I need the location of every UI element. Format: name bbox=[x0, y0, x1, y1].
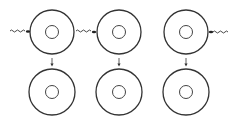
egg-cell-1 bbox=[30, 10, 74, 54]
nucleus-icon bbox=[46, 86, 59, 99]
nucleus-icon bbox=[180, 86, 193, 99]
egg-cell-2 bbox=[97, 10, 141, 54]
egg-cell-3 bbox=[164, 10, 208, 54]
nucleus-icon bbox=[113, 26, 126, 39]
sperm-icon bbox=[10, 30, 30, 33]
nucleus-icon bbox=[46, 26, 59, 39]
result-cell-2 bbox=[96, 69, 142, 115]
result-cell-1 bbox=[29, 69, 75, 115]
sperm-icon bbox=[209, 31, 228, 34]
fertilization-diagram bbox=[0, 0, 236, 120]
nucleus-icon bbox=[180, 26, 193, 39]
result-cell-3 bbox=[163, 69, 209, 115]
nucleus-icon bbox=[113, 86, 126, 99]
sperm-icon bbox=[76, 30, 96, 33]
